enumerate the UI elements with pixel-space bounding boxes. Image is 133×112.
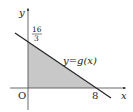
line-label: y=g(x) (62, 55, 97, 66)
y-axis-arrow-icon (27, 9, 29, 11)
y-intercept-numerator: 16 (32, 25, 42, 34)
x-axis-label: x (121, 90, 127, 101)
origin-label: O (18, 90, 26, 101)
y-axis-label: y (18, 7, 25, 18)
x-intercept-label: 8 (92, 90, 98, 101)
graph-canvas: y 16 3 y=g(x) O 8 x (0, 0, 133, 112)
y-intercept-denominator: 3 (34, 34, 39, 43)
x-axis-arrow-icon (123, 87, 125, 89)
